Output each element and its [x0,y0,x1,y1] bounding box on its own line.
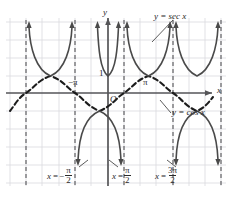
x-axis-label: x [217,86,221,95]
fraction-numerator-2: 3π [167,166,178,175]
fraction-0: π 2 [65,166,72,185]
y-axis-arrow [105,18,111,25]
neg-pi-2-leader [79,160,88,167]
fraction-denominator-0: 2 [65,175,72,185]
sec-branch-down-2 [176,111,218,160]
asymptote-label-pi-2: x = π 2 [112,166,131,185]
sec-branch-up-3 [127,27,170,76]
fraction-2: 3π 2 [167,166,178,185]
asymptote-label-3pi-2: x = 3π 2 [155,166,178,185]
fraction-denominator-1: 2 [124,175,131,185]
asymptote-label-lead-1: x [112,171,116,181]
x-axis [6,90,212,96]
fraction-1: π 2 [124,166,131,185]
cos-curve-label: y = cos x [172,108,205,117]
y-axis-label: y [103,8,107,17]
asymptote-label-neg-pi-2: x = − π 2 [47,166,72,185]
sec-branch-down-1 [78,111,121,160]
fraction-numerator-1: π [124,166,131,175]
fraction-denominator-2: 2 [169,175,176,185]
sec-curve-label: y = sec x [154,12,186,21]
asymptote-lines [26,20,221,186]
sec-branch-up-1 [29,27,72,76]
x-tick-pi-label: π [143,78,148,87]
asymptote-label-equals-1: = [118,171,123,181]
asymptote-label-lead-2: x [155,171,159,181]
fraction-numerator-0: π [65,166,72,175]
y-tick-one-label: 1 [99,69,104,78]
asymptote-label-sign-0: − [59,171,64,181]
x-tick-neg-pi-label: −π [68,78,78,87]
sec-branch-up-4 [176,27,218,76]
asymptote-label-lead-0: x [47,171,51,181]
sec-cos-graph-figure: x y O 1 −π π y = sec x y = cos x x = − π… [0,0,232,199]
x-axis-arrow [205,90,212,96]
asymptote-label-equals-0: = [53,171,58,181]
origin-label: O [110,95,117,104]
asymptote-label-equals-2: = [161,171,166,181]
